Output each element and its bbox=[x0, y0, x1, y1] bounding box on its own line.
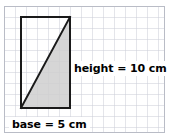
geometry-figure: height = 10 cm base = 5 cm bbox=[0, 0, 170, 137]
height-label: height = 10 cm bbox=[71, 61, 170, 76]
base-label: base = 5 cm bbox=[9, 117, 90, 132]
